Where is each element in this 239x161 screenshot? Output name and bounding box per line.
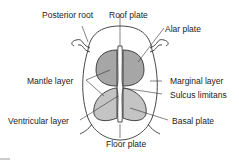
label-sulcus-limitans: Sulcus limitans	[170, 91, 227, 100]
leader-posterior-root	[82, 26, 88, 42]
ventral-tail-right	[148, 124, 160, 134]
label-posterior-root: Posterior root	[42, 11, 93, 20]
label-ventricular-layer: Ventricular layer	[8, 117, 69, 126]
posterior-root-right	[150, 40, 168, 48]
label-mantle-layer: Mantle layer	[27, 77, 73, 86]
label-roof-plate: Roof plate	[109, 11, 148, 20]
central-canal	[117, 46, 123, 122]
label-alar-plate: Alar plate	[165, 25, 201, 34]
ventral-tail-left	[80, 124, 92, 134]
label-basal-plate: Basal plate	[172, 117, 214, 126]
label-marginal-layer: Marginal layer	[170, 77, 223, 86]
label-floor-plate: Floor plate	[106, 140, 146, 149]
